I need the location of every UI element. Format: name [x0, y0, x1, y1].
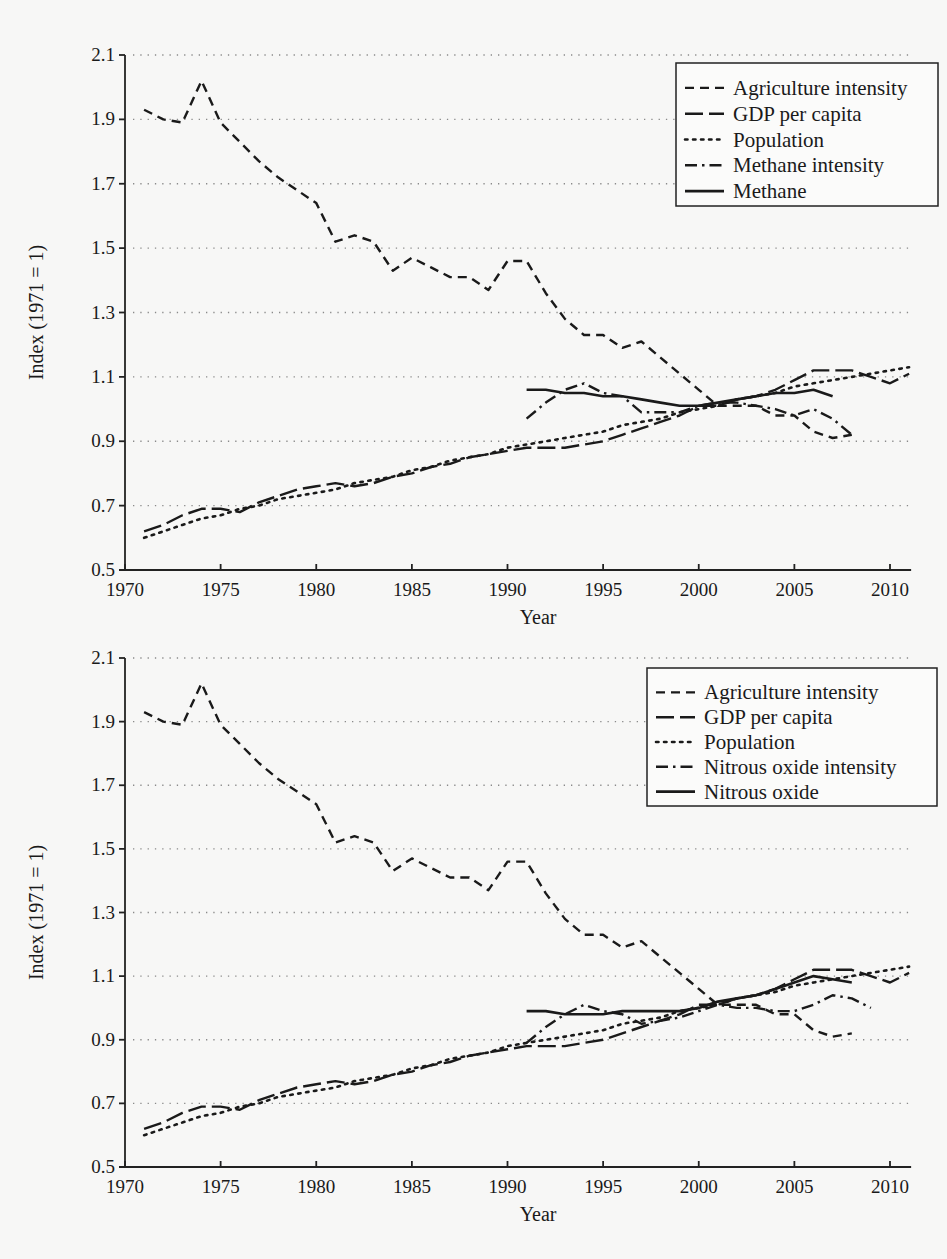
legend-label: Methane: [733, 179, 806, 203]
y-tick-label: 0.5: [91, 1156, 115, 1177]
chart-methane-plot: 2.11.91.71.51.31.10.90.70.51970197519801…: [0, 0, 947, 630]
x-tick-label: 1980: [297, 579, 335, 600]
legend-label: Population: [733, 128, 825, 152]
chart-nitrous-oxide-plot: 2.11.91.71.51.31.10.90.70.51970197519801…: [0, 600, 947, 1259]
x-tick-label: 1985: [393, 1176, 431, 1197]
x-tick-label: 1975: [202, 579, 240, 600]
y-tick-label: 0.9: [91, 430, 115, 451]
x-tick-label: 1995: [584, 579, 622, 600]
y-tick-label: 1.5: [91, 237, 115, 258]
y-tick-label: 1.9: [91, 108, 115, 129]
x-tick-label: 1970: [106, 1176, 144, 1197]
series-population: [144, 967, 909, 1136]
series-methane: [527, 390, 833, 406]
x-tick-label: 1990: [489, 579, 527, 600]
y-axis-title: Index (1971 = 1): [25, 245, 48, 380]
y-tick-label: 1.7: [91, 774, 115, 795]
x-tick-label: 1975: [202, 1176, 240, 1197]
y-tick-label: 0.7: [91, 1092, 115, 1113]
x-tick-label: 1995: [584, 1176, 622, 1197]
legend-label: GDP per capita: [704, 705, 833, 729]
x-tick-label: 1980: [297, 1176, 335, 1197]
x-tick-label: 2005: [775, 1176, 813, 1197]
x-tick-label: 2000: [680, 579, 718, 600]
y-tick-label: 2.1: [91, 44, 115, 65]
series-gdp-per-capita: [144, 370, 909, 531]
legend: Agriculture intensityGDP per capitaPopul…: [647, 668, 937, 806]
legend-label: Agriculture intensity: [704, 680, 879, 704]
y-axis-title: Index (1971 = 1): [25, 845, 48, 980]
y-tick-label: 0.7: [91, 495, 115, 516]
legend-label: Agriculture intensity: [733, 76, 908, 100]
y-tick-label: 1.3: [91, 302, 115, 323]
legend-label: Nitrous oxide: [704, 780, 819, 804]
legend-label: GDP per capita: [733, 102, 862, 126]
y-tick-label: 1.7: [91, 173, 115, 194]
x-tick-label: 2000: [680, 1176, 718, 1197]
y-tick-label: 1.5: [91, 838, 115, 859]
x-tick-label: 2010: [871, 1176, 909, 1197]
y-tick-label: 2.1: [91, 647, 115, 668]
chart-methane: 2.11.91.71.51.31.10.90.70.51970197519801…: [0, 0, 947, 630]
y-tick-label: 0.9: [91, 1029, 115, 1050]
y-tick-label: 1.3: [91, 902, 115, 923]
y-tick-label: 1.1: [91, 965, 115, 986]
chart-nitrous-oxide: 2.11.91.71.51.31.10.90.70.51970197519801…: [0, 600, 947, 1259]
legend-label: Methane intensity: [733, 153, 885, 177]
legend: Agriculture intensityGDP per capitaPopul…: [676, 63, 938, 206]
legend-label: Population: [704, 730, 796, 754]
series-nitrous-oxide-intensity: [527, 995, 871, 1043]
y-tick-label: 1.9: [91, 711, 115, 732]
x-tick-label: 1970: [106, 579, 144, 600]
y-tick-label: 0.5: [91, 559, 115, 580]
legend-label: Nitrous oxide intensity: [704, 755, 897, 779]
series-gdp-per-capita: [144, 970, 909, 1129]
x-tick-label: 2005: [775, 579, 813, 600]
x-axis-title: Year: [520, 1203, 557, 1225]
y-tick-label: 1.1: [91, 366, 115, 387]
x-tick-label: 1990: [489, 1176, 527, 1197]
x-tick-label: 2010: [871, 579, 909, 600]
x-tick-label: 1985: [393, 579, 431, 600]
